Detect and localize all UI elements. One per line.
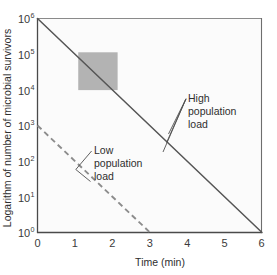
y-tick-1e4-base: 10 <box>18 85 30 97</box>
y-tick-1e5-base: 10 <box>18 49 30 61</box>
y-tick-1e0-base: 10 <box>18 227 30 239</box>
y-tick-1e0: 10 0 <box>18 225 35 239</box>
x-tick-2: 2 <box>109 237 115 249</box>
x-tick-4: 4 <box>184 237 190 249</box>
low-load-line-3: load <box>94 170 114 182</box>
y-tick-1e1: 10 1 <box>18 190 35 204</box>
highlight-rectangle <box>78 52 117 90</box>
y-tick-1e4: 10 4 <box>18 83 35 97</box>
low-load-line-2: population <box>94 157 143 169</box>
x-axis-title: Time (min) <box>135 256 185 268</box>
x-tick-3: 3 <box>147 237 153 249</box>
y-tick-1e3: 10 3 <box>18 118 35 132</box>
y-tick-1e5: 10 5 <box>18 47 35 61</box>
y-tick-1e6: 10 6 <box>18 11 35 25</box>
y-tick-1e6-exponent: 6 <box>31 11 35 20</box>
y-tick-1e1-exponent: 1 <box>31 190 35 199</box>
high-load-line-3: load <box>188 118 208 130</box>
x-tick-5: 5 <box>222 237 228 249</box>
x-tick-0: 0 <box>34 237 40 249</box>
y-tick-1e2: 10 2 <box>18 154 35 168</box>
y-tick-1e4-exponent: 4 <box>31 83 35 92</box>
y-tick-1e6-base: 10 <box>18 13 30 25</box>
y-tick-1e2-base: 10 <box>18 156 30 168</box>
x-tick-1: 1 <box>72 237 78 249</box>
x-tick-6: 6 <box>258 237 264 249</box>
y-tick-1e5-exponent: 5 <box>31 47 35 56</box>
microbial-survivors-chart: 10 6 10 5 10 4 10 3 10 2 10 1 <box>0 0 277 275</box>
y-tick-1e3-base: 10 <box>18 120 30 132</box>
high-load-line-1: High <box>188 92 210 104</box>
y-tick-1e1-base: 10 <box>18 192 30 204</box>
low-load-line-1: Low <box>94 144 114 156</box>
x-axis-ticks: 0 1 2 3 4 5 6 <box>34 237 264 249</box>
y-tick-1e0-exponent: 0 <box>31 225 35 234</box>
y-axis-ticks: 10 6 10 5 10 4 10 3 10 2 10 1 <box>18 11 35 239</box>
chart-page: 10 6 10 5 10 4 10 3 10 2 10 1 <box>0 0 277 275</box>
y-tick-1e2-exponent: 2 <box>31 154 35 163</box>
high-load-line-2: population <box>188 105 237 117</box>
y-axis-title: Logarithm of number of microbial survivo… <box>1 29 13 227</box>
y-tick-1e3-exponent: 3 <box>31 118 35 127</box>
